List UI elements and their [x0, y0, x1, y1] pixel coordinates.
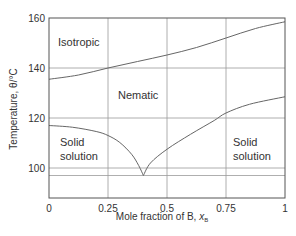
y-tick-label: 120 [28, 113, 45, 124]
phase-boundary-curve [143, 97, 285, 176]
region-label-nematic: Nematic [118, 89, 159, 101]
y-tick-label: 160 [28, 13, 45, 24]
region-label-solid-right-2: solution [233, 150, 271, 162]
y-tick-label: 100 [28, 163, 45, 174]
y-axis-label: Temperature, θ/°C [8, 68, 19, 149]
phase-diagram-chart: 00.250.50.751100120140160 Isotropic Nema… [0, 0, 296, 236]
x-tick-label: 1 [282, 203, 288, 214]
x-axis-label-sub: B [204, 217, 208, 223]
x-axis-label-main: Mole fraction of B, [116, 211, 199, 222]
region-label-solid-left-1: Solid [60, 136, 84, 148]
region-label-solid-left-2: solution [60, 150, 98, 162]
x-tick-label: 0 [46, 203, 52, 214]
y-tick-label: 140 [28, 63, 45, 74]
region-label-isotropic: Isotropic [58, 36, 100, 48]
region-label-solid-right-1: Solid [233, 136, 257, 148]
x-axis-label: Mole fraction of B, xB [116, 211, 208, 223]
x-tick-label: 0.75 [216, 203, 236, 214]
